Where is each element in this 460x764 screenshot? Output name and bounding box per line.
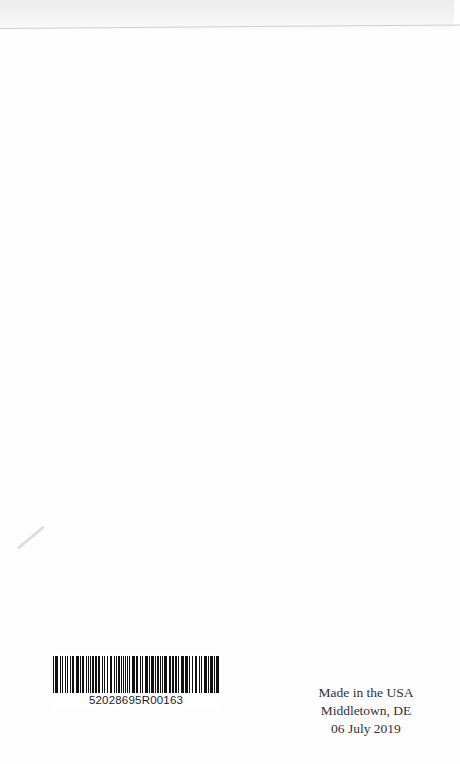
imprint-location: Middletown, DE bbox=[300, 702, 432, 720]
print-imprint: Made in the USA Middletown, DE 06 July 2… bbox=[300, 684, 432, 738]
barcode-number: 52028695R00163 bbox=[50, 694, 222, 706]
imprint-origin: Made in the USA bbox=[300, 684, 432, 702]
barcode-label: 52028695R00163 bbox=[50, 655, 222, 707]
imprint-date: 06 July 2019 bbox=[300, 720, 432, 738]
barcode-bars bbox=[53, 656, 220, 693]
scan-smudge bbox=[17, 525, 45, 549]
